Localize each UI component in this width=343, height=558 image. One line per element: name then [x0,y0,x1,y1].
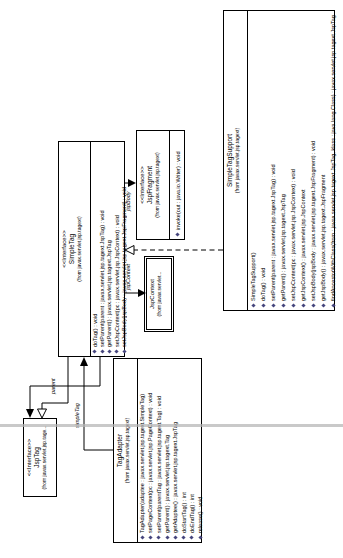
method-signature: getAdaptee() : javax.servlet.jsp.tagext.… [172,422,178,533]
method-signature: getParent() : javax.servlet.jsp.tagext.J… [280,194,286,301]
public-visibility-icon [93,349,97,353]
class-title-jspfragment: <<Interface>> JspFragment (from javax.se… [137,131,169,239]
class-name: JspFragment [146,131,154,239]
public-visibility-icon [173,535,177,539]
public-visibility-icon [115,349,119,353]
method-row: setParent(parentTag : javax.servlet.jsp.… [155,359,163,542]
method-signature: setJspBody(jspBody : javax.servlet.jsp.t… [310,141,316,301]
method-signature: SimpleTagSupport() [250,252,256,301]
class-name: SimpleTag [68,142,76,356]
class-title-jsptag: <<Interface>> JspTag (from javax.servlet… [24,419,47,496]
method-row: getJspBody() : javax.servlet.jsp.tagext.… [318,11,328,310]
method-signature: setJspContext(pc : javax.servlet.jsp.Jsp… [290,169,296,301]
role-label-jspcontext: jspContext [125,264,131,290]
public-visibility-icon [311,303,315,307]
method-row: getParent() : javax.servlet.jsp.tagext.J… [106,142,113,356]
public-visibility-icon [175,232,179,236]
method-row: doTag() : void [258,11,268,310]
public-visibility-icon [165,535,169,539]
method-compartment: invoke(out : java.io.Writer) : void [169,131,187,239]
method-row: doStartTag() : int [179,359,187,542]
method-row: setJspBody(jspBody : javax.servlet.jsp.t… [308,11,318,310]
method-row: doTag() : void [91,142,98,356]
public-visibility-icon [148,535,152,539]
class-box-tagadapter[interactable]: TagAdapter (from javax.servlet.jsp.tagex… [113,358,202,543]
public-visibility-icon [140,535,144,539]
class-name: TagAdapter [116,359,124,542]
class-name: SimpleTagSupport [226,11,234,310]
stereotype-label: <<Interface>> [139,131,146,239]
method-row: setJspContext(pc : javax.servlet.jsp.Jsp… [113,142,120,356]
class-box-jspfragment[interactable]: <<Interface>> JspFragment (from javax.se… [136,130,185,240]
class-box-simpletag[interactable]: <<Interface>> SimpleTag (from javax.serv… [58,141,125,357]
package-label: (from javax.servlet.jsp.tagext) [76,142,82,356]
method-row: getAdaptee() : javax.servlet.jsp.tagext.… [171,359,179,542]
class-title-simpletag: <<Interface>> SimpleTag (from javax.serv… [59,142,90,356]
package-label: (from javax.servlet.jsp.tagext) [234,11,240,310]
generalization-hollow-arrow-icon [38,409,47,418]
public-visibility-icon [100,349,104,353]
method-row: TagAdapter(adaptee : javax.servlet.jsp.t… [138,359,146,542]
method-compartment: TagAdapter(adaptee : javax.servlet.jsp.t… [137,359,204,542]
public-visibility-icon [251,303,255,307]
public-visibility-icon [331,303,335,307]
method-signature: getJspContext() : javax.servlet.jsp.JspC… [300,189,306,301]
method-row: getParent() : javax.servlet.jsp.tagext.T… [163,359,171,542]
method-row: release() : void [196,359,204,542]
method-signature: doStartTag() : int [181,492,187,533]
method-signature: release() : void [197,497,203,533]
uml-diagram-viewport: <<Interface>> JspTag (from javax.servlet… [0,0,343,558]
method-row: setParent(parent : javax.servlet.jsp.tag… [98,142,105,356]
method-signature: setParent(parent : javax.servlet.jsp.tag… [99,210,105,347]
association-jspcontext-arrow-icon [138,289,146,297]
method-signature: doTag() : void [92,314,98,347]
method-signature: doTag() : void [260,268,266,301]
class-title-simpletagsupport: SimpleTagSupport (from javax.servlet.jsp… [224,11,247,310]
public-visibility-icon [271,303,275,307]
stereotype-label: <<Interface>> [26,419,33,496]
method-row: findAncestorWithClass(from : javax.servl… [328,11,337,310]
stereotype-label: <<Interface>> [61,142,68,356]
class-box-jsptag[interactable]: <<Interface>> JspTag (from javax.servlet… [23,418,57,497]
method-row: SimpleTagSupport() [248,11,258,310]
method-signature: invoke(out : java.io.Writer) : void [175,152,181,230]
public-visibility-icon [321,303,325,307]
method-row: setJspContext(pc : javax.servlet.jsp.Jsp… [288,11,298,310]
method-signature: findAncestorWithClass(from : javax.servl… [330,15,336,301]
public-visibility-icon [182,535,186,539]
method-signature: setJspContext(pc : javax.servlet.jsp.Jsp… [114,215,120,347]
method-signature: setPageContext(pc : javax.servlet.jsp.Pa… [147,393,153,533]
public-visibility-icon [198,535,202,539]
method-row: invoke(out : java.io.Writer) : void [170,131,185,239]
method-signature: getParent() : javax.servlet.jsp.tagext.J… [106,240,112,347]
method-compartment: SimpleTagSupport()doTag() : voidsetParen… [247,11,337,310]
package-label: (from javax.servlet.jsp.tage... [41,419,47,496]
public-visibility-icon [281,303,285,307]
method-row: getParent() : javax.servlet.jsp.tagext.J… [278,11,288,310]
public-visibility-icon [122,349,126,353]
package-label: (from javax.servlet.jsp.tagext) [124,359,130,542]
method-row: doEndTag() : int [188,359,196,542]
role-label-parent: parent [50,378,56,394]
method-signature: getJspBody() : javax.servlet.jsp.tagext.… [320,175,326,301]
method-signature: setParent(parentTag : javax.servlet.jsp.… [156,396,162,533]
public-visibility-icon [107,349,111,353]
package-label: (from javax.servlet.jsp.tagext) [154,131,160,239]
association-parent-arrow-icon [26,409,34,418]
method-row: setJspBody(jspBody : javax.servlet.jsp.t… [121,142,127,356]
method-signature: doEndTag() : int [189,494,195,533]
class-title-tagadapter: TagAdapter (from javax.servlet.jsp.tagex… [114,359,137,542]
public-visibility-icon [157,535,161,539]
method-row: setParent(parent : javax.servlet.jsp.tag… [268,11,278,310]
class-title-jspcontext: JspContext (from javax.servlet... [147,259,162,329]
method-signature: TagAdapter(adaptee : javax.servlet.jsp.t… [139,394,145,533]
role-label-jspbody: jspBody [125,191,131,211]
class-box-simpletagsupport[interactable]: SimpleTagSupport (from javax.servlet.jsp… [223,10,335,311]
class-name: JspTag [33,419,41,496]
public-visibility-icon [291,303,295,307]
method-row: setPageContext(pc : javax.servlet.jsp.Pa… [146,359,154,542]
class-box-jspcontext[interactable]: JspContext (from javax.servlet... [146,258,172,330]
public-visibility-icon [261,303,265,307]
package-label: (from javax.servlet... [156,259,162,329]
method-signature: getParent() : javax.servlet.jsp.tagext.T… [164,435,170,533]
